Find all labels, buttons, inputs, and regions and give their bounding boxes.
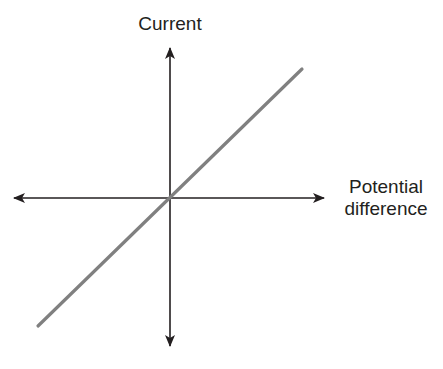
x-axis-label-line1: Potential: [330, 176, 442, 198]
y-axis-label: Current: [120, 13, 220, 35]
x-axis-label-line2: difference: [330, 198, 442, 220]
x-axis-label: Potential difference: [330, 176, 442, 220]
